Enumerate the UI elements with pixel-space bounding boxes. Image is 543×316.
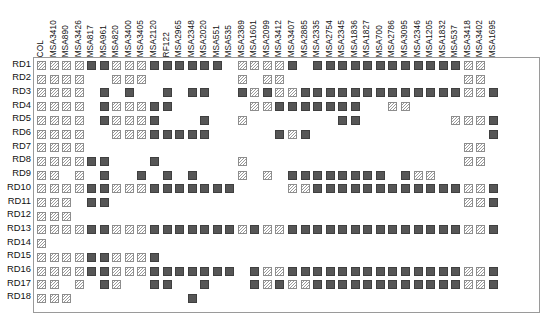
column-header-msa2885: MSA2885 [300,20,308,57]
hatched-square-marker [37,239,46,248]
column-header-msa2120: MSA2120 [149,20,157,57]
solid-square-marker [87,61,96,70]
solid-square-marker [225,267,234,276]
solid-square-marker [301,102,310,111]
hatched-square-marker [137,253,146,262]
hatched-square-marker [112,102,121,111]
solid-square-marker [313,184,322,193]
hatched-square-marker [37,198,46,207]
solid-square-marker [351,267,360,276]
solid-square-marker [288,61,297,70]
solid-square-marker [250,280,259,289]
solid-square-marker [326,88,335,97]
solid-square-marker [163,225,172,234]
hatched-square-marker [112,280,121,289]
hatched-square-marker [37,116,46,125]
hatched-square-marker [75,75,84,84]
hatched-square-marker [75,253,84,262]
solid-square-marker [313,171,322,180]
solid-square-marker [351,88,360,97]
row-label-rd3: RD3 [12,86,31,95]
solid-square-marker [351,184,360,193]
hatched-square-marker [37,143,46,152]
solid-square-marker [175,267,184,276]
solid-square-marker [200,225,209,234]
row-label-rd16: RD16 [7,264,31,273]
hatched-square-marker [75,184,84,193]
solid-square-marker [188,225,197,234]
solid-square-marker [288,171,297,180]
solid-square-marker [326,61,335,70]
hatched-square-marker [137,102,146,111]
solid-square-marker [388,267,397,276]
hatched-square-marker [476,184,485,193]
hatched-square-marker [112,225,121,234]
hatched-square-marker [37,225,46,234]
column-header-col: COL [36,40,44,57]
hatched-square-marker [137,75,146,84]
column-header-msa3405: MSA3405 [136,20,144,57]
solid-square-marker [275,280,284,289]
hatched-square-marker [50,130,59,139]
solid-square-marker [326,267,335,276]
column-header-msa551: MSA551 [212,25,220,57]
solid-square-marker [388,225,397,234]
hatched-square-marker [401,102,410,111]
row-label-rd15: RD15 [7,250,31,259]
hatched-square-marker [414,171,423,180]
hatched-square-marker [112,130,121,139]
column-header-msa2754: MSA2754 [325,20,333,57]
hatched-square-marker [476,61,485,70]
hatched-square-marker [250,102,259,111]
column-header-msa3412: MSA3412 [274,20,282,57]
column-header-msa3418: MSA3418 [463,20,471,57]
solid-square-marker [200,280,209,289]
hatched-square-marker [62,253,71,262]
hatched-square-marker [238,157,247,166]
hatched-square-marker [464,198,473,207]
solid-square-marker [100,198,109,207]
solid-square-marker [351,280,360,289]
solid-square-marker [376,61,385,70]
solid-square-marker [451,61,460,70]
solid-square-marker [213,61,222,70]
solid-square-marker [376,88,385,97]
hatched-square-marker [137,130,146,139]
solid-square-marker [489,280,498,289]
solid-square-marker [313,225,322,234]
solid-square-marker [363,280,372,289]
solid-square-marker [313,267,322,276]
hatched-square-marker [137,116,146,125]
column-header-msa3402: MSA3402 [475,20,483,57]
hatched-square-marker [464,61,473,70]
solid-square-marker [301,225,310,234]
solid-square-marker [401,61,410,70]
hatched-square-marker [125,225,134,234]
solid-square-marker [163,130,172,139]
solid-square-marker [376,280,385,289]
solid-square-marker [363,88,372,97]
hatched-square-marker [50,198,59,207]
solid-square-marker [326,225,335,234]
solid-square-marker [100,253,109,262]
hatched-square-marker [75,102,84,111]
solid-square-marker [100,225,109,234]
solid-square-marker [301,88,310,97]
row-label-rd2: RD2 [12,72,31,81]
solid-square-marker [338,280,347,289]
hatched-square-marker [37,267,46,276]
hatched-square-marker [37,157,46,166]
solid-square-marker [150,253,159,262]
column-header-msa3426: MSA3426 [74,20,82,57]
solid-square-marker [439,184,448,193]
hatched-square-marker [75,267,84,276]
solid-square-marker [301,130,310,139]
column-header-msa3095: MSA3095 [400,20,408,57]
hatched-square-marker [62,184,71,193]
solid-square-marker [426,267,435,276]
column-header-msa817: MSA817 [86,25,94,57]
hatched-square-marker [75,88,84,97]
column-header-msa1205: MSA1205 [425,20,433,57]
column-header-msa2965: MSA2965 [174,20,182,57]
hatched-square-marker [476,143,485,152]
